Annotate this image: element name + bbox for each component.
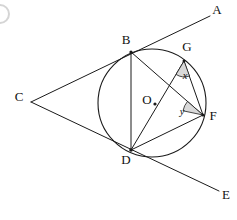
geometry-diagram: A B C D E F G O x y xyxy=(0,0,237,220)
vertex-dot-B xyxy=(129,50,132,53)
vertex-dot-G xyxy=(183,60,186,63)
point-label-A: A xyxy=(212,2,222,17)
center-dot-O xyxy=(153,102,156,105)
angle-label-y: y xyxy=(179,106,185,117)
point-label-D: D xyxy=(121,152,130,167)
point-label-F: F xyxy=(209,108,216,123)
angle-wedge-y xyxy=(183,101,203,115)
point-label-E: E xyxy=(222,187,230,202)
point-label-B: B xyxy=(122,32,131,47)
geometry-canvas: A B C D E F G O x y xyxy=(0,0,237,220)
angle-label-x: x xyxy=(182,70,188,81)
tangent-line-C-D-E xyxy=(31,102,219,191)
point-label-G: G xyxy=(182,39,191,54)
vertex-dot-F xyxy=(201,113,204,116)
scan-artifact-icon xyxy=(0,5,9,23)
point-label-O: O xyxy=(142,92,151,107)
point-label-C: C xyxy=(15,89,24,104)
